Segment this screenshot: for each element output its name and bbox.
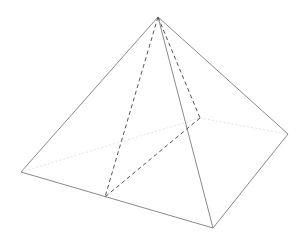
pyramid-diagram (0, 0, 304, 247)
dashed-cross-section-edges (105, 17, 200, 197)
dashed-edge-apex-back (158, 17, 200, 118)
edge-apex-right (158, 17, 288, 134)
hidden-edge-left-back (21, 118, 200, 172)
edge-apex-front (158, 17, 213, 228)
edge-front-right (213, 134, 288, 228)
visible-edges (21, 17, 288, 228)
dashed-edge-back-mid_front_left (105, 118, 200, 197)
edge-left-front (21, 172, 213, 228)
edge-apex-left (21, 17, 158, 172)
dashed-edge-apex-mid_front_left (105, 17, 158, 197)
hidden-edge-back-right (200, 118, 288, 134)
